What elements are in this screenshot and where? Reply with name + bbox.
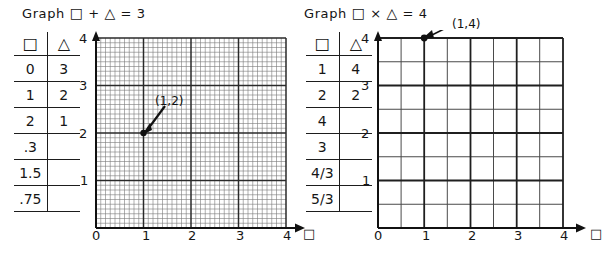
annotation-arrow-icon [423, 30, 434, 38]
left-title-result: 3 [137, 6, 146, 21]
right-title-triangle-icon: △ [386, 5, 397, 21]
table-header-row: □ △ [14, 32, 80, 56]
left-xtick-3: 3 [236, 228, 244, 243]
table-row: 2 1 [14, 108, 80, 134]
left-exercise-title: Graph □ + △ = 3 [22, 5, 146, 21]
right-cell-box: 5/3 [306, 186, 339, 212]
right-title-result: 4 [419, 6, 428, 21]
right-cell-box: 4 [306, 108, 339, 134]
right-exercise-title: Graph □ × △ = 4 [304, 5, 428, 21]
graph-exercise-left: Graph □ + △ = 3 □ △ 0 3 1 2 [0, 0, 308, 259]
right-point-annotation: (1,4) [452, 17, 480, 31]
left-header-triangle-icon: △ [47, 32, 80, 56]
left-xtick-4: 4 [283, 228, 291, 243]
right-title-equals: = [403, 6, 415, 21]
grid-major-lines [378, 38, 563, 228]
left-point-annotation: (1,2) [155, 94, 183, 108]
left-title-triangle-icon: △ [104, 5, 115, 21]
right-ytick-2: 2 [361, 126, 369, 141]
left-cell-box: .75 [14, 186, 47, 212]
y-axis-arrow-icon [374, 31, 382, 41]
y-axis-arrow-icon [92, 31, 100, 41]
left-xtick-0: 0 [92, 228, 100, 243]
right-cell-box: 1 [306, 56, 339, 82]
right-xtick-2: 2 [468, 228, 476, 243]
left-header-box-icon: □ [14, 32, 47, 56]
right-ytick-4: 4 [361, 31, 369, 46]
left-coordinate-grid [86, 30, 308, 259]
left-xtick-1: 1 [142, 228, 150, 243]
left-cell-box: 0 [14, 56, 47, 82]
right-ytick-1: 1 [362, 173, 370, 188]
right-ytick-3: 3 [361, 78, 369, 93]
table-row: 5/3 [306, 186, 372, 212]
left-title-operator: + [88, 6, 100, 21]
left-cell-triangle [47, 186, 80, 212]
left-ytick-2: 2 [79, 126, 87, 141]
right-xtick-3: 3 [514, 228, 522, 243]
left-cell-triangle: 3 [47, 56, 80, 82]
left-xtick-2: 2 [188, 228, 196, 243]
right-coordinate-grid [368, 30, 608, 259]
x-axis-arrow-icon [576, 224, 586, 233]
left-ytick-1: 1 [80, 173, 88, 188]
right-title-box-icon: □ [352, 5, 366, 21]
right-xtick-1: 1 [422, 228, 430, 243]
left-cell-triangle: 2 [47, 82, 80, 108]
left-cell-triangle [47, 160, 80, 186]
axis-lines [378, 36, 580, 228]
table-row: 0 3 [14, 56, 80, 82]
left-cell-triangle: 1 [47, 108, 80, 134]
graph-exercise-right: Graph □ × △ = 4 □ △ 1 4 2 2 [300, 0, 616, 259]
left-title-equals: = [121, 6, 133, 21]
right-xtick-0: 0 [374, 228, 382, 243]
right-title-operator: × [370, 6, 382, 21]
right-header-box-icon: □ [306, 32, 339, 56]
left-cell-box: 1.5 [14, 160, 47, 186]
left-title-prefix: Graph [22, 6, 65, 21]
worksheet-page: Graph □ + △ = 3 □ △ 0 3 1 2 [0, 0, 616, 259]
right-cell-box: 4/3 [306, 160, 339, 186]
left-value-table: □ △ 0 3 1 2 2 1 .3 [14, 32, 80, 212]
left-cell-triangle [47, 134, 80, 160]
left-cell-box: 1 [14, 82, 47, 108]
left-ytick-4: 4 [79, 31, 87, 46]
table-row: .75 [14, 186, 80, 212]
right-cell-box: 3 [306, 134, 339, 160]
left-cell-box: .3 [14, 134, 47, 160]
left-title-box-icon: □ [70, 5, 84, 21]
table-row: .3 [14, 134, 80, 160]
table-row: 1.5 [14, 160, 80, 186]
left-cell-box: 2 [14, 108, 47, 134]
right-xtick-4: 4 [560, 228, 568, 243]
table-row: 1 2 [14, 82, 80, 108]
right-cell-box: 2 [306, 82, 339, 108]
right-title-prefix: Graph [304, 6, 347, 21]
left-ytick-3: 3 [79, 78, 87, 93]
right-x-axis-box-icon: □ [590, 226, 602, 241]
